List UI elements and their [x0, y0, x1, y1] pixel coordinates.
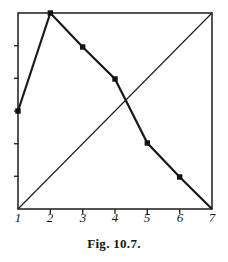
data-point-marker [15, 108, 20, 113]
x-tick-label-5: 5 [137, 211, 157, 225]
data-point-marker [112, 76, 117, 81]
x-tick-label-3: 3 [73, 211, 93, 225]
x-tick-label-6: 6 [170, 211, 190, 225]
figure-caption: Fig. 10.7. [0, 236, 228, 252]
data-point-marker [80, 44, 85, 49]
data-point-marker [177, 174, 182, 179]
plot-area: 1 2 3 4 5 6 7 [0, 0, 228, 228]
data-point-marker [48, 10, 53, 15]
data-point-marker [145, 140, 150, 145]
x-tick-label-4: 4 [105, 211, 125, 225]
x-tick-label-1: 1 [8, 211, 28, 225]
plot-svg [0, 0, 228, 228]
x-tick-label-2: 2 [40, 211, 60, 225]
x-tick-label-7: 7 [202, 211, 222, 225]
figure-container: 1 2 3 4 5 6 7 Fig. 10.7. [0, 0, 228, 262]
